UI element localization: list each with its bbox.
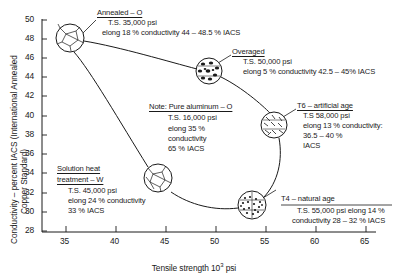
x-axis-title-main: Tensile strength 10 [152, 263, 220, 273]
annotation-solution-heading-line1: Solution heat [57, 165, 100, 174]
micrograph-annealed [56, 24, 84, 52]
y-tick-38: 38 [25, 130, 34, 140]
annotation-t6-line2: elong 13 % conductivity: [303, 122, 383, 131]
x-tick-60: 60 [310, 237, 319, 247]
annotation-note-heading: Note: Pure aluminum – O [149, 103, 232, 112]
annotation-t4-line2: conductivity 28 – 32 % IACS [292, 217, 385, 226]
y-tick-32: 32 [25, 188, 34, 198]
micrograph-overaged [196, 58, 222, 84]
leader-t6 [283, 109, 296, 117]
y-tick-30: 30 [25, 207, 34, 217]
annotation-t4-line1: T.S. 55,000 psi elong 14 % [297, 207, 385, 216]
y-tick-48: 48 [25, 34, 34, 44]
micrograph-t6 [261, 112, 287, 138]
y-tick-42: 42 [25, 91, 34, 101]
y-tick-44: 44 [25, 72, 34, 82]
annotation-annealed-line1: T.S. 35,000 psi [108, 19, 157, 28]
annotation-solution-line2: elong 24 % conductivity [68, 197, 145, 206]
annotation-annealed-heading: Annealed – O [97, 9, 142, 18]
x-axis-title-unit: psi [223, 263, 236, 273]
x-axis-title: Tensile strength 103 psi [143, 252, 236, 277]
annotation-solution-line3: 33 % IACS [68, 207, 104, 216]
x-tick-40: 40 [110, 237, 119, 247]
x-tick-65: 65 [360, 237, 369, 247]
annotation-note-line2: elong 35 % [168, 125, 205, 134]
x-tick-50: 50 [210, 237, 219, 247]
annotation-solution-line1: T.S. 45,000 psi [68, 187, 117, 196]
y-tick-40: 40 [25, 111, 34, 121]
micrograph-solution-heat [144, 164, 172, 192]
micrograph-t4 [238, 191, 266, 219]
annotation-note-line4: 65 % IACS [168, 145, 204, 154]
annotation-solution-heading-line2: treatment – W [57, 176, 103, 185]
leader-t4 [263, 190, 276, 198]
annotation-t6-line4: IACS [303, 142, 320, 151]
annotation-overaged-line1: T.S. 50,000 psi [243, 58, 292, 67]
annotation-t6-line3: 36.5 – 40 % [303, 132, 342, 141]
leader-annealed [83, 20, 96, 33]
y-tick-50: 50 [25, 15, 34, 25]
y-tick-46: 46 [25, 53, 34, 63]
leader-overaged [218, 55, 231, 63]
x-tick-45: 45 [160, 237, 169, 247]
annotation-t6-line1: T.S 58,000 psi [303, 112, 350, 121]
annotation-t4-heading: T4 – natural age [281, 195, 335, 204]
annotation-overaged-heading: Overaged [232, 48, 265, 57]
y-axis-ticks [42, 20, 47, 231]
y-tick-36: 36 [25, 149, 34, 159]
annotation-annealed-line2: elong 18 % conductivity 44 – 48.5 % IACS [102, 29, 240, 38]
x-axis-ticks [66, 226, 366, 232]
y-tick-34: 34 [25, 168, 34, 178]
x-tick-35: 35 [60, 237, 69, 247]
annotation-note-line1: T.S. 16,000 psi [168, 114, 217, 123]
y-tick-28: 28 [25, 226, 34, 236]
x-tick-55: 55 [260, 237, 269, 247]
annotation-t6-heading: T6 – artificial age [297, 102, 353, 111]
annotation-overaged-line2: elong 5 % conductivity 42.5 – 45% IACS [243, 68, 375, 77]
annotation-note-line3: conductivity [168, 135, 206, 144]
y-axis-title-line1: Conductivity – percent IACS (Internation… [10, 55, 19, 244]
